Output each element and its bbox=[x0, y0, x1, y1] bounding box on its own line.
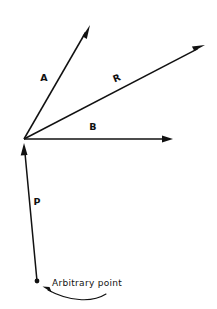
vector-diagram-figure: A R B P Arbitrary point bbox=[0, 0, 217, 309]
vector-r-arrowhead bbox=[192, 45, 205, 51]
vector-p-shaft bbox=[25, 151, 37, 281]
diagram-canvas: A R B P Arbitrary point bbox=[0, 0, 217, 309]
vector-p bbox=[21, 143, 37, 281]
arbitrary-point-label: Arbitrary point bbox=[52, 278, 122, 288]
vector-r-label: R bbox=[111, 71, 123, 84]
vector-a-label: A bbox=[40, 72, 48, 83]
vector-a-arrowhead bbox=[82, 25, 90, 39]
annotation-leader-curve bbox=[48, 290, 106, 300]
vector-p-arrowhead bbox=[21, 143, 28, 156]
vector-p-label: P bbox=[33, 196, 40, 207]
vector-b-arrowhead bbox=[162, 136, 173, 143]
annotation-leader bbox=[43, 287, 107, 300]
arbitrary-point-dot bbox=[35, 279, 40, 284]
vector-b bbox=[24, 136, 173, 143]
vector-b-label: B bbox=[89, 121, 96, 132]
